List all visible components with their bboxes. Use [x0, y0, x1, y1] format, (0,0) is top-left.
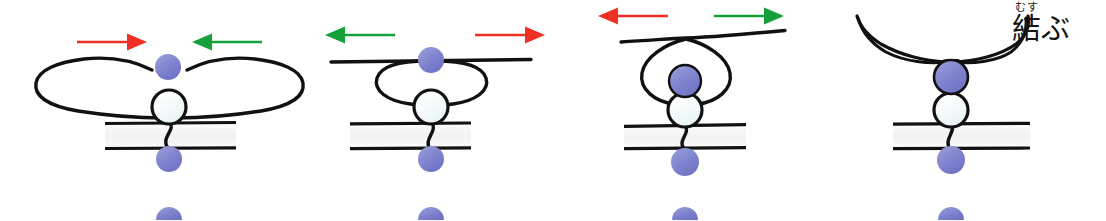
bead-blue-partial-bottom-panel-1 [156, 207, 182, 220]
arrow-right-green-right-panel-3 [714, 8, 784, 25]
bead-blue-top-panel-2 [418, 47, 444, 73]
arrow-right-red-right-panel-2 [475, 27, 545, 44]
bead-white-knot-panel-4 [934, 93, 968, 127]
bead-blue-below-membrane-panel-3 [671, 148, 699, 176]
bead-white-knot-panel-1 [152, 90, 186, 124]
arrow-left-red-left-panel-3 [598, 8, 668, 25]
arrow-left-green-left-panel-2 [325, 27, 395, 44]
caption-musubu: むす 結ぶ [1012, 2, 1104, 44]
figure-musubu-sequence: むす 結ぶ [0, 0, 1106, 220]
membrane-panel-2 [350, 123, 471, 149]
bead-blue-partial-bottom-panel-2 [418, 207, 444, 220]
diagram-canvas [0, 0, 1106, 220]
arrow-right-green-left-panel-1 [192, 34, 262, 51]
bead-blue-partial-bottom-panel-3 [672, 207, 698, 220]
membrane-panel-4 [893, 123, 1030, 148]
panel-3 [598, 8, 785, 221]
bead-blue-below-membrane-panel-1 [156, 146, 182, 172]
panel-2 [325, 27, 545, 221]
bead-blue-top-panel-1 [155, 54, 181, 80]
bead-blue-in-loop-panel-3 [669, 65, 701, 97]
bead-blue-partial-bottom-panel-4 [938, 207, 964, 220]
bead-blue-below-membrane-panel-2 [418, 146, 444, 172]
bead-blue-below-membrane-panel-4 [937, 146, 965, 174]
caption-base-text: 結ぶ [1012, 15, 1104, 44]
bead-white-knot-panel-2 [414, 90, 448, 124]
panel-4 [857, 16, 1030, 220]
bead-blue-knotted-panel-4 [934, 60, 968, 94]
arrow-left-red-right-panel-1 [77, 34, 147, 51]
panel-1 [36, 34, 303, 221]
